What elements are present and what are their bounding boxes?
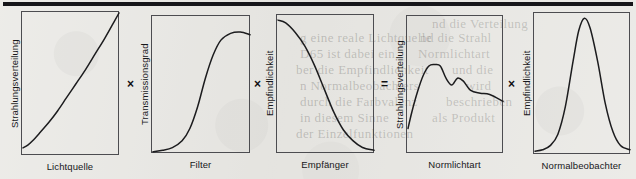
operator-multiply-2: × — [254, 78, 261, 90]
y-axis-label-normlichtart: Strahlungsverteilung — [394, 40, 405, 129]
falling-sensitivity-curve — [278, 20, 374, 150]
plot-area-empfaenger — [277, 15, 375, 154]
plot-area-normlichtart — [407, 16, 504, 154]
figure-colorimetry-equation: nd die Verteilungg eine reale Lichtquell… — [0, 0, 636, 179]
plot-panel-empfaenger — [276, 14, 374, 153]
plot-panel-lichtquelle — [21, 11, 119, 155]
x-axis-label-normlichtart: Normlichtart — [406, 159, 503, 170]
x-axis-label-lichtquelle: Lichtquelle — [21, 161, 119, 172]
rising-radiation-distribution-curve — [23, 13, 119, 148]
y-axis-label-empfaenger: Empfindlichkeit — [264, 51, 275, 116]
operator-multiply-1: × — [127, 78, 134, 90]
observer-bell-sensitivity-curve — [535, 18, 630, 151]
plot-panel-normlichtart — [406, 15, 503, 153]
plot-panel-normalbeobachter — [533, 12, 630, 154]
x-axis-label-normalbeobachter: Normalbeobachter — [533, 160, 630, 171]
plot-panel-filter — [151, 15, 250, 153]
x-axis-label-empfaenger: Empfänger — [276, 159, 374, 170]
y-axis-label-filter: Transmissionsgrad — [139, 43, 150, 125]
y-axis-label-normalbeobachter: Empfindlichkeit — [521, 50, 532, 115]
top-horizontal-rule — [3, 2, 633, 6]
plot-area-filter — [152, 16, 251, 154]
operator-equals: = — [381, 78, 388, 90]
standard-illuminant-spectrum-curve — [408, 64, 503, 128]
operator-multiply-3: × — [508, 78, 515, 90]
sigmoid-transmittance-curve — [153, 32, 250, 152]
plot-area-lichtquelle — [22, 12, 120, 156]
y-axis-label-lichtquelle: Strahlungsverteilung — [9, 39, 20, 128]
x-axis-label-filter: Filter — [151, 159, 250, 170]
plot-area-normalbeobachter — [534, 13, 631, 155]
